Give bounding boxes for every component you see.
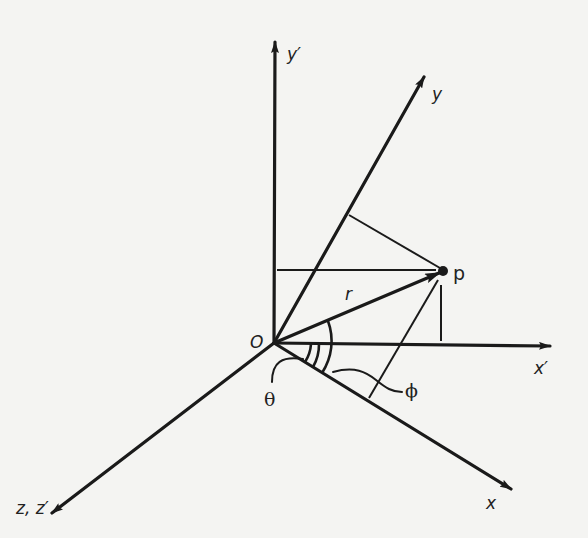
y-label: y [431,84,443,104]
point-p-dot [438,266,448,276]
phi-label: ϕ [405,379,418,401]
phi-arc [322,321,332,373]
origin-label: O [250,332,263,352]
y-prime-label: y′ [286,44,301,64]
z-axis [52,343,274,513]
theta-leader [272,358,303,382]
x-prime-label: x′ [533,358,548,378]
x-axis [274,343,511,489]
vector-r-label: r [345,284,353,304]
theta-label: θ [264,388,275,410]
theta-arc-outer [313,344,319,367]
vector-r [274,273,439,343]
projection-to-y-axis [349,215,440,268]
x-prime-axis [274,343,550,346]
z-label: z, z′ [15,498,49,518]
point-p-label: p [453,262,465,284]
x-label: x [485,493,497,513]
phi-leader [333,370,402,392]
coordinate-diagram: y′ y x′ x z, z′ O p r θ ϕ [0,0,588,538]
theta-arc-inner [305,344,311,362]
y-prime-axis [274,42,275,343]
